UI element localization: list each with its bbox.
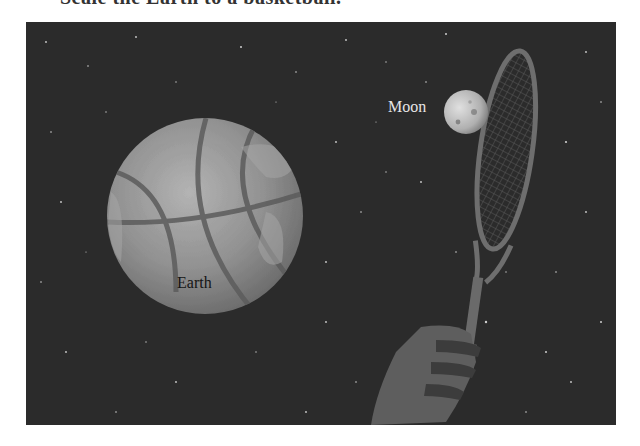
- caption-text-cropped: Scale the Earth to a basketball.: [60, 0, 342, 9]
- moon-label: Moon: [388, 98, 426, 116]
- earth-label: Earth: [177, 274, 212, 292]
- scene-graphic: [26, 22, 616, 425]
- earth-basketball: [107, 118, 322, 314]
- moon: [444, 90, 488, 134]
- hand-holding-racket: [371, 326, 481, 425]
- space-illustration: Earth Moon: [26, 22, 616, 425]
